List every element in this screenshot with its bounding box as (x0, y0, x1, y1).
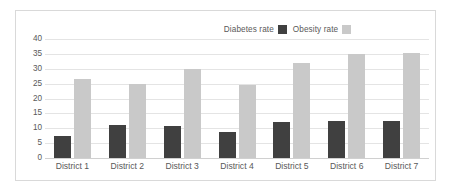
bar-obesity-rate[interactable] (74, 79, 91, 158)
legend-label: Obesity rate (293, 25, 338, 34)
gridline-0 (45, 158, 429, 159)
chart-legend: Diabetes rateObesity rate (78, 25, 452, 34)
x-tick-label: District 2 (100, 161, 155, 171)
bar-diabetes-rate[interactable] (54, 136, 71, 158)
bar-group (264, 39, 319, 158)
y-tick-label: 25 (20, 80, 42, 88)
legend-swatch-icon (278, 25, 287, 34)
x-tick-label: District 3 (155, 161, 210, 171)
bar-obesity-rate[interactable] (293, 63, 310, 158)
bar-obesity-rate[interactable] (129, 84, 146, 158)
bar-group (319, 39, 374, 158)
plot-area: 4035302520151050 District 1District 2Dis… (16, 11, 435, 180)
bar-diabetes-rate[interactable] (328, 121, 345, 158)
y-tick-label: 30 (20, 65, 42, 73)
bar-series-container (45, 39, 429, 158)
legend-item-diabetes-rate[interactable]: Diabetes rate (224, 25, 287, 34)
legend-label: Diabetes rate (224, 25, 274, 34)
bar-group (100, 39, 155, 158)
bar-chart: 4035302520151050 District 1District 2Dis… (15, 10, 436, 181)
bar-group (45, 39, 100, 158)
legend-swatch-icon (342, 25, 351, 34)
y-tick-label: 10 (20, 124, 42, 132)
x-tick-label: District 5 (264, 161, 319, 171)
bar-diabetes-rate[interactable] (109, 125, 126, 158)
x-tick-label: District 4 (210, 161, 265, 171)
y-tick-label: 40 (20, 35, 42, 43)
y-tick-label: 20 (20, 94, 42, 102)
y-tick-label: 15 (20, 109, 42, 117)
bar-diabetes-rate[interactable] (164, 126, 181, 158)
x-tick-label: District 6 (319, 161, 374, 171)
bar-obesity-rate[interactable] (184, 69, 201, 158)
x-axis: District 1District 2District 3District 4… (45, 161, 429, 171)
bar-group (374, 39, 429, 158)
y-tick-label: 35 (20, 50, 42, 58)
y-tick-label: 5 (20, 139, 42, 147)
y-axis: 4035302520151050 (20, 39, 42, 158)
legend-item-obesity-rate[interactable]: Obesity rate (293, 25, 351, 34)
bar-obesity-rate[interactable] (239, 85, 256, 158)
x-tick-label: District 1 (45, 161, 100, 171)
bar-diabetes-rate[interactable] (383, 121, 400, 158)
bar-group (155, 39, 210, 158)
bar-group (210, 39, 265, 158)
x-tick-label: District 7 (374, 161, 429, 171)
bar-obesity-rate[interactable] (403, 53, 420, 158)
bar-diabetes-rate[interactable] (219, 132, 236, 158)
bar-diabetes-rate[interactable] (273, 122, 290, 158)
bar-obesity-rate[interactable] (348, 54, 365, 158)
y-tick-label: 0 (20, 154, 42, 162)
